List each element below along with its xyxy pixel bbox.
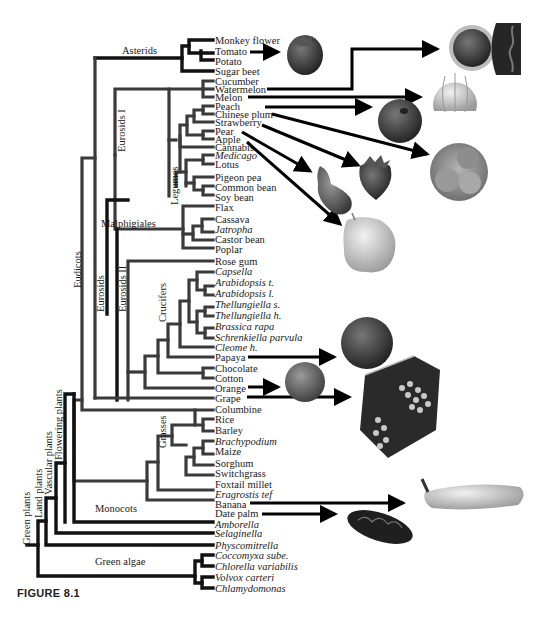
clade-land-plants: Land plants [33,469,44,518]
leaf-flax: Flax [215,202,234,213]
leaf-coccomyxa: Coccomyxa sube. [215,550,288,561]
clade-eurosids-i: Eurosids I [116,109,127,152]
leaf-monkey-flower: Monkey flower [215,35,281,46]
leaf-papaya: Papaya [215,352,246,363]
chinese-plum-photo [430,143,488,201]
clade-vascular-plants: Vascular plants [43,431,54,495]
papaya-photo [341,317,393,369]
grape-photo [360,356,440,458]
clade-flowering-plants: Flowering plants [53,389,64,460]
figure-caption: FIGURE 8.1 [17,587,80,599]
date-photo [343,503,416,551]
leaf-chlorella: Chlorella variabilis [215,561,298,572]
clade-eudicots: Eudicots [72,251,83,288]
clade-green-algae: Green algae [95,556,146,567]
clade-grasses: Grasses [157,415,168,448]
tomato-photo [287,35,323,75]
clade-green-plants: Green plants [21,492,32,545]
clade-labels: Asterids Malphigiales Monocots Green alg… [21,45,180,567]
leaf-switchgrass: Switchgrass [215,468,266,479]
leaf-volvox: Volvox carteri [215,572,274,583]
leaf-rice: Rice [215,414,235,425]
leaf-arabidopsis-t: Arabidopsis t. [214,277,274,288]
strawberry-photo [359,155,391,200]
clade-legumes: Legumes [169,167,180,206]
leaf-selaginella: Selaginella [215,528,262,539]
leaf-brassica-rapa: Brassica rapa [215,321,274,332]
leaf-arabidopsis-l: Arabidopsis l. [214,288,274,299]
leaf-maize: Maize [215,446,242,457]
leaf-thellungiella-s: Thellungiella s. [215,299,280,310]
leaf-barley: Barley [215,425,244,436]
leaf-chlamydomonas: Chlamydomonas [215,583,286,594]
clade-asterids: Asterids [122,45,157,56]
clade-malphigiales: Malphigiales [101,218,156,229]
clade-crucifers: Crucifers [157,283,168,322]
fruit-photos [285,23,524,551]
leaf-date-palm: Date palm [215,508,258,519]
orange-photo [285,362,325,402]
banana-photo [422,479,524,509]
watermelon-photo [449,23,521,75]
leaf-capsella: Capsella [215,266,252,277]
leaf-poplar: Poplar [215,244,243,255]
phylogenetic-tree: Monkey flower Tomato Potato Sugar beet C… [0,0,548,622]
leaf-lotus: Lotus [215,159,239,170]
peach-photo [378,99,422,143]
leaf-thellungiella-h: Thellungiella h. [215,310,282,321]
leaf-grape: Grape [215,393,241,404]
melon-photo [433,73,477,112]
clade-monocots: Monocots [95,503,137,514]
clade-eurosids-ii: Eurosids II [117,265,128,312]
apple-photo [343,213,395,272]
clade-eurosids: Eurosids [95,275,106,312]
